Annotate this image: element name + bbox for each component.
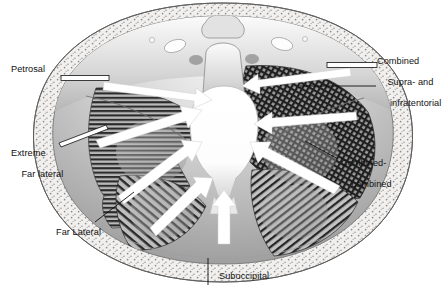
occipital-lobe-right bbox=[260, 185, 328, 239]
label-combined-combined: Combined- combined bbox=[341, 158, 392, 190]
carotid-canal-right bbox=[245, 54, 259, 64]
label-line-1: Combined bbox=[377, 56, 419, 66]
figure-canvas: Petrosal Combined Supra- and infratentor… bbox=[0, 0, 448, 299]
label-suboccipital: Suboccipital bbox=[219, 271, 269, 282]
leader-petrosal bbox=[61, 76, 109, 81]
label-line-1: Combined- bbox=[341, 158, 386, 168]
label-line-3: infratentorial bbox=[387, 98, 441, 108]
foramen-small-right bbox=[303, 37, 308, 42]
skull-base-illustration bbox=[0, 0, 448, 299]
label-combined-supra-infratentorial: Combined Supra- and infratentorial bbox=[377, 56, 441, 109]
label-line-2: Far lateral bbox=[21, 169, 63, 179]
label-petrosal: Petrosal bbox=[11, 64, 45, 75]
label-far-lateral: Far Lateral bbox=[56, 227, 101, 238]
carotid-canal-left bbox=[189, 55, 203, 65]
label-line-1: Extreme bbox=[11, 148, 46, 158]
leader-combined-supra-a bbox=[327, 63, 377, 68]
label-line-2: Supra- and bbox=[387, 77, 433, 87]
label-line-2: combined bbox=[351, 179, 391, 189]
foramen-small-left bbox=[149, 37, 154, 42]
label-extreme-far-lateral: Extreme Far lateral bbox=[11, 148, 63, 180]
